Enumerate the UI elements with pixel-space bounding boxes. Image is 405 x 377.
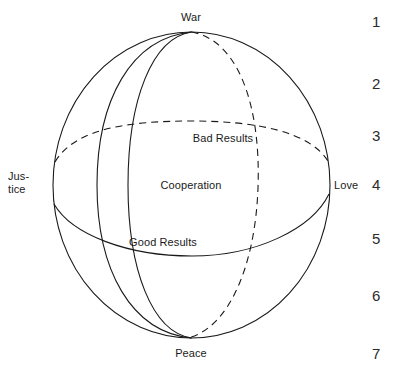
- scale-number-3: 3: [372, 128, 380, 144]
- scale-number-7: 7: [372, 346, 380, 362]
- scale-number-1: 1: [372, 14, 380, 30]
- scale-number-6: 6: [372, 288, 380, 304]
- scale-number-2: 2: [372, 76, 380, 92]
- label-cooperation: Cooperation: [160, 179, 221, 191]
- label-good-results: Good Results: [129, 236, 197, 248]
- label-peace: Peace: [175, 347, 207, 359]
- latitude-upper-dashed: [55, 121, 328, 162]
- scale-number-4: 4: [372, 177, 380, 193]
- label-justice-line1: Jus-: [8, 170, 29, 182]
- label-war: War: [181, 11, 201, 23]
- label-justice-line2: tice: [8, 183, 26, 195]
- label-bad-results: Bad Results: [193, 132, 253, 144]
- diagram-canvas: War Peace Jus- tice Love Bad Results Coo…: [0, 0, 405, 377]
- scale-number-5: 5: [372, 231, 380, 247]
- label-love: Love: [334, 179, 358, 191]
